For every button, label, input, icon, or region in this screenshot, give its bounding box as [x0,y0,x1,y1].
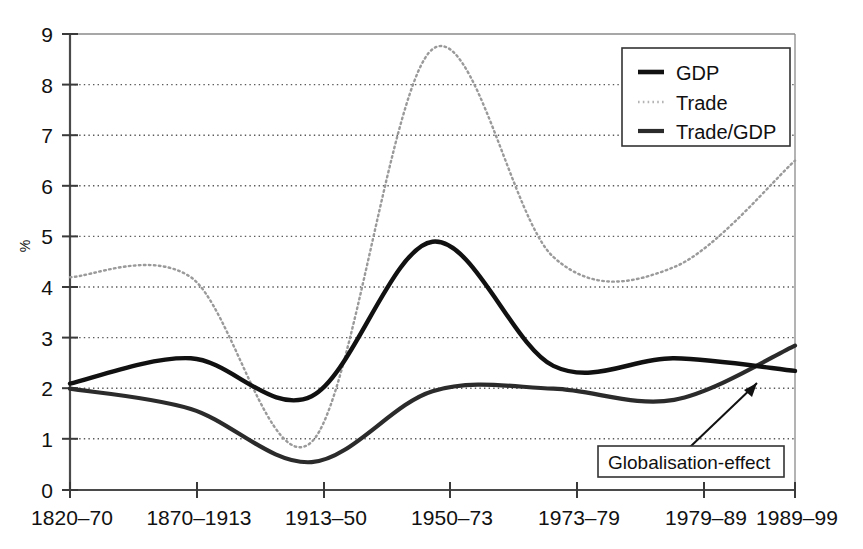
x-tick-label-2: 1913–50 [285,506,367,529]
y-tick-label-0: 0 [41,479,53,502]
y-tick-label-3: 3 [41,327,53,350]
y-tick-label-4: 4 [41,276,53,299]
series-line-trade-gdp [70,346,795,463]
y-tick-label-5: 5 [41,225,53,248]
x-tick-labels: 1820–70 1870–1913 1913–50 1950–73 1973–7… [31,506,838,529]
chart-page: 9 8 7 6 5 4 3 2 1 0 % 1820–70 1870–1913 … [0,0,863,549]
x-tick-label-1: 1870–1913 [146,506,251,529]
y-axis-title: % [17,240,33,252]
legend[interactable]: GDP Trade Trade/GDP [622,48,790,146]
y-tick-label-8: 8 [41,74,53,97]
x-tick-label-4: 1973–79 [538,506,620,529]
legend-label-gdp: GDP [676,62,719,84]
x-tick-label-3: 1950–73 [411,506,493,529]
x-tick-label-5: 1979–89 [665,506,747,529]
y-tick-label-9: 9 [41,23,53,46]
y-tick-label-7: 7 [41,124,53,147]
y-tick-labels: 9 8 7 6 5 4 3 2 1 0 [41,23,53,502]
line-chart: 9 8 7 6 5 4 3 2 1 0 % 1820–70 1870–1913 … [0,0,863,549]
y-tick-label-1: 1 [41,428,53,451]
y-tick-label-6: 6 [41,175,53,198]
legend-label-trade: Trade [676,92,728,114]
y-tick-label-2: 2 [41,377,53,400]
x-tick-label-6: 1989–99 [756,506,838,529]
annotation-label: Globalisation-effect [608,452,771,473]
legend-label-trade-gdp: Trade/GDP [676,121,776,143]
series-line-gdp [70,242,795,401]
x-tick-label-0: 1820–70 [31,506,113,529]
